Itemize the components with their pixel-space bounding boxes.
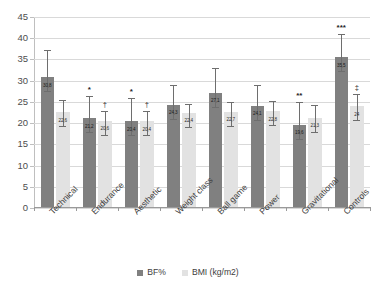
bar-bf-percent[interactable]: [167, 105, 181, 208]
bar-bf-percent[interactable]: [251, 106, 265, 208]
error-bar-cap-upper: [296, 102, 303, 103]
error-bar-cap-lower: [212, 107, 219, 108]
y-axis-tick-label: 40: [0, 33, 28, 43]
error-bar-cap-lower: [101, 135, 108, 136]
x-axis-tick-mark: [328, 207, 329, 211]
significance-marker: †: [92, 101, 118, 109]
error-bar-cap-lower: [86, 132, 93, 133]
error-bar-cap-upper: [227, 102, 234, 103]
error-bar-cap-upper: [170, 85, 177, 86]
legend-label: BMI (kg/m2): [192, 268, 239, 277]
error-bar-cap-lower: [227, 126, 234, 127]
y-axis-tick-label: 20: [0, 118, 28, 128]
significance-marker: ***: [329, 24, 355, 32]
error-bar-cap-lower: [44, 91, 51, 92]
legend-item[interactable]: BF%: [137, 268, 166, 277]
significance-marker: ‡: [344, 84, 370, 92]
y-axis-tick-label: 0: [0, 203, 28, 213]
legend-item[interactable]: BMI (kg/m2): [182, 268, 239, 277]
bar-group: 24,122,8: [244, 17, 286, 208]
significance-marker: *: [119, 88, 145, 96]
error-bar-cap-upper: [254, 85, 261, 86]
legend-swatch-bf-percent: [137, 270, 143, 276]
bar-group: 30,822,6: [34, 17, 76, 208]
error-bar-cap-lower: [143, 135, 150, 136]
error-bar-cap-upper: [143, 111, 150, 112]
y-axis-tick-label: 45: [0, 12, 28, 22]
grouped-bar-chart: 051015202530354045 30,822,621,2*20,6†20,…: [0, 0, 376, 288]
significance-marker: †: [134, 101, 160, 109]
x-axis-tick-mark: [244, 207, 245, 211]
error-bar-cap-lower: [269, 125, 276, 126]
bar-value-label: 22,7: [222, 117, 240, 122]
x-axis-tick-mark: [118, 207, 119, 211]
y-axis-tick-label: 25: [0, 97, 28, 107]
error-bar-cap-upper: [338, 34, 345, 35]
y-axis-tick-label: 5: [0, 182, 28, 192]
y-axis-tick-label: 35: [0, 54, 28, 64]
error-bar-cap-lower: [296, 139, 303, 140]
significance-marker: *: [77, 86, 103, 94]
bar-value-label: 22,8: [264, 117, 282, 122]
bar-value-label: 20,4: [138, 127, 156, 132]
bar-value-label: 20,6: [96, 126, 114, 131]
error-bar-cap-lower: [128, 135, 135, 136]
bar-group: 24,322,4: [160, 17, 202, 208]
y-axis-tick-label: 30: [0, 76, 28, 86]
error-bar-cap-upper: [44, 50, 51, 51]
error-bar-cap-lower: [353, 120, 360, 121]
error-bar-cap-upper: [311, 105, 318, 106]
bar-group: 20,4*20,4†: [118, 17, 160, 208]
error-bar-cap-upper: [86, 96, 93, 97]
legend-swatch-bmi: [182, 270, 188, 276]
bar-group: 19,6**21,3: [286, 17, 328, 208]
bar-value-label: 22,4: [180, 118, 198, 123]
x-axis-tick-mark: [370, 207, 371, 211]
bar-value-label: 19,6: [291, 130, 309, 135]
bar-bf-percent[interactable]: [209, 93, 223, 208]
error-bar-cap-upper: [353, 94, 360, 95]
bar-value-label: 35,5: [333, 63, 351, 68]
y-axis-tick-label: 10: [0, 161, 28, 171]
legend-label: BF%: [147, 268, 166, 277]
bar-value-label: 24,3: [165, 110, 183, 115]
error-bar-cap-upper: [212, 68, 219, 69]
error-bar-cap-lower: [338, 71, 345, 72]
bar-bf-percent[interactable]: [41, 77, 55, 208]
bar-group: 21,2*20,6†: [76, 17, 118, 208]
bar-value-label: 30,8: [39, 83, 57, 88]
x-axis-category-labels: TechnicalEnduranceAestheticWeight classB…: [34, 208, 370, 266]
error-bar-cap-lower: [311, 132, 318, 133]
significance-marker: **: [287, 92, 313, 100]
bar-value-label: 22,6: [54, 118, 72, 123]
bar-value-label: 27,1: [207, 98, 225, 103]
x-axis-tick-mark: [286, 207, 287, 211]
error-bar-cap-lower: [59, 126, 66, 127]
chart-legend: BF%BMI (kg/m2): [0, 268, 376, 277]
x-axis-tick-mark: [160, 207, 161, 211]
x-axis-tick-mark: [76, 207, 77, 211]
x-axis-tick-mark: [202, 207, 203, 211]
error-bar-cap-upper: [101, 111, 108, 112]
error-bar-cap-upper: [269, 101, 276, 102]
error-bar-cap-lower: [185, 127, 192, 128]
error-bar-cap-upper: [185, 104, 192, 105]
bar-value-label: 24: [348, 112, 366, 117]
error-bar-cap-upper: [128, 98, 135, 99]
error-bar-cap-lower: [170, 119, 177, 120]
y-axis-tick-label: 15: [0, 139, 28, 149]
error-bar-cap-lower: [254, 120, 261, 121]
bar-value-label: 21,3: [306, 123, 324, 128]
x-axis-tick-mark: [34, 207, 35, 211]
bar-value-label: 24,1: [249, 111, 267, 116]
error-bar-cap-upper: [59, 100, 66, 101]
